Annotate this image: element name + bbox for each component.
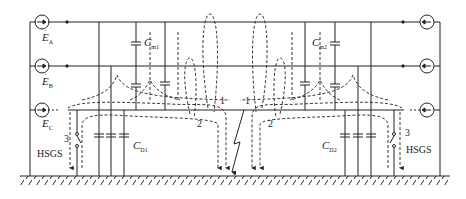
label-cm1: Cm1 bbox=[144, 37, 159, 50]
hsgs-right-switch bbox=[390, 110, 396, 176]
label-hsgs-right: HSGS bbox=[406, 145, 432, 155]
label-cd1: CD1 bbox=[133, 140, 148, 153]
fault-lightning-icon bbox=[232, 110, 244, 172]
label-path-2-left: 2 bbox=[197, 119, 202, 129]
label-path-3-right: 3 bbox=[405, 128, 410, 138]
label-cd2: CD2 bbox=[322, 140, 337, 153]
label-hsgs-left: HSGS bbox=[37, 149, 63, 159]
label-path-1-left: 1 bbox=[220, 96, 225, 106]
label-path-1-right: 1 bbox=[245, 96, 250, 106]
circuit-diagram bbox=[0, 0, 466, 199]
source-right-a bbox=[420, 15, 434, 29]
label-path-3-left: 3 bbox=[64, 134, 69, 144]
label-eb: ·EB bbox=[42, 76, 53, 89]
source-right-c bbox=[420, 103, 434, 117]
label-path-2-right: 2 bbox=[268, 119, 273, 129]
ground-hatch bbox=[20, 176, 450, 185]
label-ea: ·EA bbox=[42, 32, 53, 45]
source-right-b bbox=[420, 59, 434, 73]
hsgs-left-switch bbox=[76, 110, 82, 176]
label-ec: ·EC bbox=[42, 118, 53, 131]
label-cm2: Cm2 bbox=[312, 37, 327, 50]
